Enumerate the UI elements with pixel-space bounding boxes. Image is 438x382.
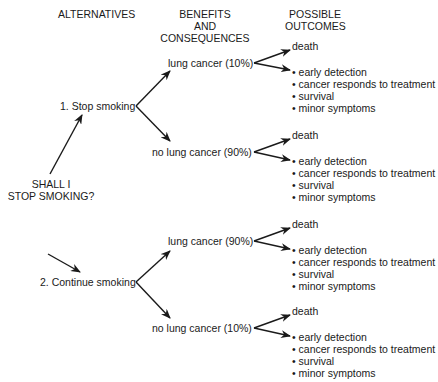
header-line: AND <box>160 20 250 32</box>
outcome-item: cancer responds to treatment <box>292 167 435 179</box>
outcome-death: death <box>292 218 318 230</box>
outcome-item: cancer responds to treatment <box>292 343 435 355</box>
outcome-item: minor symptoms <box>292 191 435 203</box>
outcome-item: minor symptoms <box>292 280 435 292</box>
outcome-item: survival <box>292 355 435 367</box>
header-line: OUTCOMES <box>285 20 345 32</box>
consequence-no-lung-cancer-10: no lung cancer (10%) <box>152 322 252 334</box>
consequence-no-lung-cancer-90: no lung cancer (90%) <box>152 146 252 158</box>
header-line: BENEFITS <box>160 8 250 20</box>
alternative-stop-smoking: 1. Stop smoking <box>60 100 135 112</box>
outcome-item: cancer responds to treatment <box>292 78 435 90</box>
consequence-lung-cancer-10: lung cancer (10%) <box>168 57 253 69</box>
consequence-lung-cancer-90: lung cancer (90%) <box>168 235 253 247</box>
root-line: SHALL I <box>2 178 100 190</box>
arrow-root-to-continue <box>48 254 80 272</box>
outcome-list: early detection cancer responds to treat… <box>292 244 435 292</box>
outcome-item: minor symptoms <box>292 367 435 379</box>
root-question: SHALL I STOP SMOKING? <box>2 178 100 202</box>
outcome-item: survival <box>292 179 435 191</box>
outcome-death: death <box>292 129 318 141</box>
header-line: POSSIBLE <box>285 8 345 20</box>
outcome-item: cancer responds to treatment <box>292 256 435 268</box>
outcome-item: early detection <box>292 66 435 78</box>
header-alternatives: ALTERNATIVES <box>58 8 135 20</box>
outcome-list: early detection cancer responds to treat… <box>292 66 435 114</box>
outcome-item: survival <box>292 268 435 280</box>
outcome-death: death <box>292 305 318 317</box>
header-possible-outcomes: POSSIBLE OUTCOMES <box>285 8 345 32</box>
outcome-item: early detection <box>292 244 435 256</box>
outcome-item: minor symptoms <box>292 102 435 114</box>
outcome-list: early detection cancer responds to treat… <box>292 331 435 379</box>
alternative-continue-smoking: 2. Continue smoking <box>40 276 136 288</box>
root-line: STOP SMOKING? <box>2 190 100 202</box>
header-benefits-consequences: BENEFITS AND CONSEQUENCES <box>160 8 250 44</box>
outcome-death: death <box>292 40 318 52</box>
outcome-list: early detection cancer responds to treat… <box>292 155 435 203</box>
header-line: CONSEQUENCES <box>160 32 250 44</box>
outcome-item: survival <box>292 90 435 102</box>
outcome-item: early detection <box>292 331 435 343</box>
outcome-item: early detection <box>292 155 435 167</box>
arrow-root-to-stop <box>50 115 82 174</box>
